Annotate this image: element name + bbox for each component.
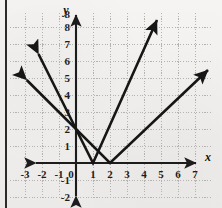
coordinate-plane-graph: y x -3 -2 -1 0 1 2 3 4 5 6 7 -2 -1 1 2 3… (0, 0, 222, 208)
x-tick-labels: -3 -2 -1 0 1 2 3 4 5 6 7 (20, 168, 198, 180)
y-tick-label: 3 (65, 106, 71, 118)
x-tick-label: 3 (124, 168, 130, 180)
x-tick-label: 4 (141, 168, 147, 180)
x-tick-label: -2 (37, 168, 47, 180)
y-tick-label: 7 (65, 38, 71, 50)
y-tick-label: 1 (65, 140, 71, 152)
y-tick-label: 8 (65, 8, 71, 20)
curve-steep-v (39, 20, 158, 163)
y-tick-label: 2 (65, 123, 71, 135)
x-tick-label: 1 (90, 168, 96, 180)
figure-container: y x -3 -2 -1 0 1 2 3 4 5 6 7 -2 -1 1 2 3… (0, 0, 222, 208)
x-tick-label: -3 (20, 168, 30, 180)
y-tick-labels: -2 -1 1 2 3 4 5 6 7 8 8 (61, 8, 71, 203)
x-tick-label: 2 (107, 168, 113, 180)
x-tick-label: 5 (158, 168, 164, 180)
x-tick-label: 7 (192, 168, 198, 180)
y-tick-label: -1 (61, 174, 70, 186)
y-tick-label: 4 (65, 89, 71, 101)
y-tick-label: 6 (65, 55, 71, 67)
x-tick-label: 6 (175, 168, 181, 180)
y-tick-label: 8 (65, 21, 71, 33)
x-axis-label: x (204, 150, 211, 164)
y-tick-label: -2 (61, 191, 71, 203)
y-tick-label: 5 (65, 72, 71, 84)
